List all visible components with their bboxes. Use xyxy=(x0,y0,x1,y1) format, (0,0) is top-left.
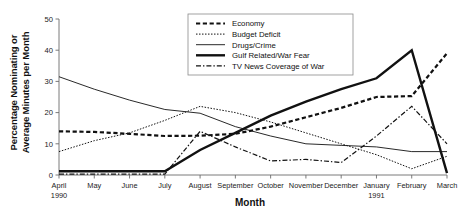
x-tick-label: August xyxy=(189,181,212,190)
x-tick-label: April xyxy=(52,181,67,190)
y-tick-label: 30 xyxy=(45,77,53,86)
x-tick-label: July xyxy=(158,181,171,190)
legend-label: Drugs/Crime xyxy=(232,41,276,50)
legend-label: Budget Deficit xyxy=(232,30,281,39)
x-tick-label: January xyxy=(363,181,390,190)
series-line-tv-news-coverage-of-war xyxy=(59,106,447,174)
y-tick-label: 0 xyxy=(49,171,53,180)
y-axis-title-line-1: Percentage Nominating or xyxy=(9,35,20,151)
y-tick-label: 40 xyxy=(45,46,53,55)
legend-label: Economy xyxy=(232,19,265,28)
line-chart-figure: Percentage Nominating or Average Minutes… xyxy=(0,0,468,216)
legend-label: Gulf Related/War Fear xyxy=(232,51,310,60)
x-tick-label: September xyxy=(217,181,254,190)
y-tick-label: 50 xyxy=(45,15,53,24)
y-axis-title-line-2: Average Minutes per Month xyxy=(20,32,31,154)
x-tick-label: March xyxy=(437,181,458,190)
chart-plot-area: 01020304050 April1990MayJuneJulyAugustSe… xyxy=(0,0,468,200)
x-tick-label: June xyxy=(122,181,138,190)
x-tick-label: May xyxy=(87,181,101,190)
legend-label: TV News Coverage of War xyxy=(232,62,325,71)
y-axis-title: Percentage Nominating or Average Minutes… xyxy=(0,0,40,185)
x-tick-label: October xyxy=(257,181,284,190)
x-axis-ticks: April1990MayJuneJulyAugustSeptemberOctob… xyxy=(51,175,458,200)
x-tick-label: December xyxy=(324,181,359,190)
y-tick-label: 20 xyxy=(45,108,53,117)
y-axis-ticks: 01020304050 xyxy=(45,15,59,180)
series-line-budget-deficit xyxy=(59,106,447,168)
y-tick-label: 10 xyxy=(45,140,53,149)
chart-legend: EconomyBudget DeficitDrugs/CrimeGulf Rel… xyxy=(188,14,353,75)
x-axis-title: Month xyxy=(60,197,440,208)
x-tick-label: November xyxy=(289,181,324,190)
x-tick-label: February xyxy=(397,181,427,190)
series-line-drugs-crime xyxy=(59,77,447,152)
